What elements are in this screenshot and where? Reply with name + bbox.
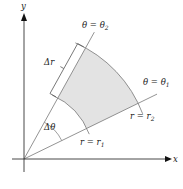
theta1-label: θ = θ1: [143, 77, 170, 88]
delta-theta-label: Δθ: [43, 122, 55, 132]
polar-rectangle-diagram: x y θ = θ2 θ = θ1 r = r2 r = r1 Δr Δθ: [0, 0, 183, 189]
y-axis-label: y: [20, 1, 26, 11]
delta-r-label: Δr: [43, 57, 55, 67]
y-axis-arrow-icon: [21, 13, 27, 21]
theta2-label: θ = θ2: [82, 20, 109, 31]
r1-label: r = r1: [80, 137, 105, 148]
polar-region: [58, 48, 138, 128]
x-axis-arrow-icon: [165, 156, 172, 162]
r2-label: r = r2: [130, 111, 155, 122]
x-axis-label: x: [173, 154, 178, 164]
